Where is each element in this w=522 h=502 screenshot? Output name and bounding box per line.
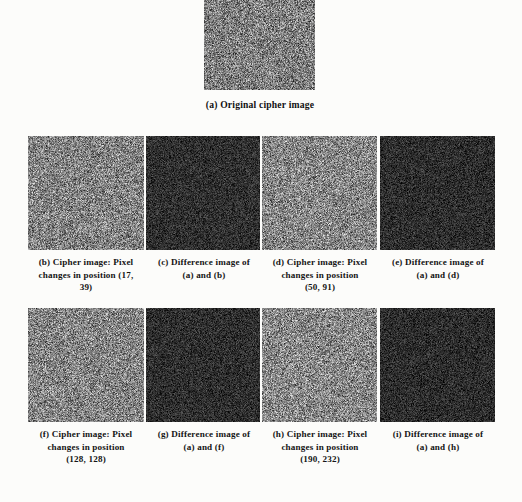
figure-panel-f [28,308,144,422]
caption-i-line-1: (i) Difference image of [378,428,498,441]
caption-h-line-1: (h) Cipher image: Pixel [257,428,383,441]
caption-e: (e) Difference image of (a) and (d) [378,256,498,281]
caption-d-line-3: (50, 91) [257,281,383,294]
figure-panel-a [204,0,315,90]
caption-b-line-2: changes in position (17, [22,269,150,282]
caption-a-line-1: (a) Original cipher image [206,99,314,110]
caption-b-line-1: (b) Cipher image: Pixel [22,256,150,269]
caption-i-line-2: (a) and (h) [378,441,498,454]
caption-g-line-1: (g) Difference image of [144,428,264,441]
caption-f-line-2: changes in position [22,441,150,454]
caption-c-line-2: (a) and (b) [144,269,264,282]
figure-panel-h [262,308,377,422]
caption-b-line-3: 39) [22,281,150,294]
caption-c-line-1: (c) Difference image of [144,256,264,269]
caption-d-line-1: (d) Cipher image: Pixel [257,256,383,269]
figure-panel-c [146,136,260,250]
caption-g: (g) Difference image of (a) and (f) [144,428,264,453]
caption-e-line-1: (e) Difference image of [378,256,498,269]
caption-g-line-2: (a) and (f) [144,441,264,454]
figure-panel-g [146,308,260,422]
caption-f: (f) Cipher image: Pixel changes in posit… [22,428,150,466]
caption-f-line-1: (f) Cipher image: Pixel [22,428,150,441]
caption-h: (h) Cipher image: Pixel changes in posit… [257,428,383,466]
caption-d-line-2: changes in position [257,269,383,282]
caption-h-line-3: (190, 232) [257,453,383,466]
caption-h-line-2: changes in position [257,441,383,454]
figure-panel-i [380,308,495,422]
figure-panel-b [28,136,144,250]
figure-page: (a) Original cipher image (b) Cipher ima… [0,0,522,502]
caption-b: (b) Cipher image: Pixel changes in posit… [22,256,150,294]
caption-c: (c) Difference image of (a) and (b) [144,256,264,281]
caption-a: (a) Original cipher image [180,98,340,111]
figure-panel-d [262,136,377,250]
caption-e-line-2: (a) and (d) [378,269,498,282]
figure-panel-e [380,136,495,250]
caption-d: (d) Cipher image: Pixel changes in posit… [257,256,383,294]
caption-f-line-3: (128, 128) [22,453,150,466]
caption-i: (i) Difference image of (a) and (h) [378,428,498,453]
